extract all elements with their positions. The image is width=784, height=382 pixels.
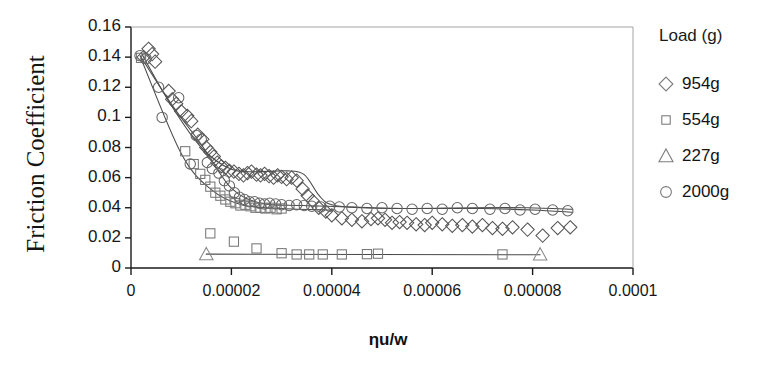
data-point-954g	[521, 223, 534, 236]
y-tick-label: 0.14	[59, 46, 121, 66]
axis-layer	[125, 27, 633, 275]
y-tick-label: 0.1	[59, 106, 121, 126]
data-point-954g	[536, 229, 549, 242]
x-tick-label: 0	[76, 282, 186, 300]
data-point-554g	[277, 249, 286, 258]
data-point-954g	[551, 221, 564, 234]
y-tick-label: 0	[59, 257, 121, 277]
data-point-2000g	[157, 112, 167, 122]
data-point-2000g	[563, 206, 573, 216]
legend-item-954g: 954g	[655, 68, 780, 99]
legend-label: 227g	[682, 146, 720, 166]
triangle-icon	[655, 145, 677, 167]
y-tick-label: 0.02	[59, 227, 121, 247]
friction-coefficient-chart: Friction Coefficient 00.020.040.060.080.…	[0, 0, 784, 382]
y-tick-label: 0.08	[59, 137, 121, 157]
data-marker-layer	[135, 42, 577, 260]
data-point-2000g	[407, 204, 417, 214]
y-tick-label: 0.06	[59, 167, 121, 187]
x-tick-label: 0.00006	[377, 282, 487, 300]
data-point-554g	[252, 244, 261, 253]
data-point-954g	[418, 218, 431, 231]
diamond-icon	[655, 73, 677, 95]
legend-item-2000g: 2000g	[655, 176, 780, 207]
y-tick-label: 0.16	[59, 16, 121, 36]
legend: Load (g) 954g554g227g2000g	[655, 26, 780, 212]
legend-label: 2000g	[682, 182, 729, 202]
x-tick-label: 0.00004	[277, 282, 387, 300]
legend-items: 954g554g227g2000g	[655, 68, 780, 207]
data-point-554g	[206, 229, 215, 238]
y-tick-label: 0.04	[59, 197, 121, 217]
legend-item-554g: 554g	[655, 104, 780, 135]
x-tick-label: 0.00002	[176, 282, 286, 300]
data-point-954g	[409, 218, 422, 231]
data-point-2000g	[485, 204, 495, 214]
x-axis-title: ηu/w	[300, 330, 476, 350]
data-point-227g	[200, 247, 214, 259]
x-tick-label: 0.00008	[478, 282, 588, 300]
data-point-554g	[373, 249, 382, 258]
y-tick-label: 0.12	[59, 76, 121, 96]
data-point-954g	[378, 213, 391, 226]
legend-label: 954g	[682, 74, 720, 94]
legend-label: 554g	[682, 110, 720, 130]
legend-title: Load (g)	[659, 26, 780, 46]
data-point-954g	[564, 221, 577, 234]
circle-icon	[655, 181, 677, 203]
data-point-2000g	[437, 204, 447, 214]
data-point-2000g	[530, 204, 540, 214]
legend-item-227g: 227g	[655, 140, 780, 171]
data-point-554g	[229, 237, 238, 246]
data-point-227g	[533, 248, 547, 260]
square-icon	[655, 109, 677, 131]
x-tick-label: 0.0001	[578, 282, 688, 300]
data-point-2000g	[547, 205, 557, 215]
